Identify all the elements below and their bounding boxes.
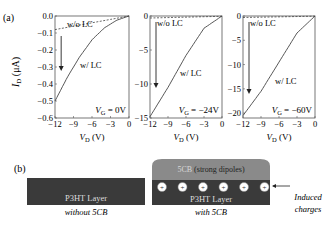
gate-voltage-label: VG = −60V [272, 105, 313, 116]
x-tick-label: 0 [127, 119, 131, 129]
caption-without: without 5CB [65, 207, 108, 217]
x-tick-label: −6 [181, 119, 190, 129]
x-tick-label: 0 [313, 119, 317, 129]
arrow-down-icon [154, 83, 159, 88]
plot-3: 0−5−10−15−20−12−9−6−30VD (V)w/o LCw/ LCV… [228, 11, 317, 143]
arrow-down-icon [247, 89, 252, 94]
lc-label: 5CB (strong dipoles) [177, 165, 244, 174]
x-axis-label: VD (V) [174, 132, 199, 143]
arrowhead-icon [272, 184, 276, 188]
x-tick-label: −6 [87, 119, 96, 129]
plot-2: 0−5−10−15−12−9−6−30VD (V)w/o LCw/ LCVG =… [135, 11, 224, 143]
annotation-line1: Induced [293, 192, 322, 202]
y-tick-label: 0 [237, 11, 241, 21]
p3ht-label-left: P3HT Layer [65, 193, 107, 203]
plot-1: 0.0−0.1−0.2−0.3−0.4−0.5−0.6−12−9−6−30VD … [38, 11, 132, 143]
svg-text:+: + [160, 184, 164, 192]
x-tick-label: −12 [143, 119, 156, 129]
x-axis-label: VD (V) [267, 132, 292, 143]
y-axis-label: ID (μA) [10, 57, 23, 88]
svg-text:+: + [181, 184, 185, 192]
label-with-lc: w/ LC [80, 60, 102, 70]
y-tick-label: −20 [228, 108, 241, 118]
y-tick-label: −0.2 [38, 45, 53, 55]
y-tick-label: 0 [144, 11, 148, 21]
x-tick-label: −9 [256, 119, 265, 129]
y-tick-label: 0.0 [42, 11, 53, 21]
y-tick-label: −15 [228, 84, 241, 94]
label-with-lc: w/ LC [180, 68, 202, 78]
y-tick-label: −5 [139, 45, 148, 55]
gate-voltage-label: VG = −24V [179, 105, 220, 116]
x-tick-label: −3 [199, 119, 208, 129]
y-tick-label: −0.1 [38, 28, 53, 38]
x-tick-label: −3 [292, 119, 301, 129]
caption-with: with 5CB [195, 207, 227, 217]
x-tick-label: −12 [48, 119, 61, 129]
plot-frame [150, 16, 222, 118]
p3ht-label-right: P3HT Layer [190, 194, 232, 204]
x-axis-label: VD (V) [80, 132, 105, 143]
y-tick-label: −10 [228, 60, 241, 70]
panel-a-label: (a) [3, 12, 14, 24]
svg-text:+: + [242, 184, 246, 192]
gate-voltage-label: VG = 0V [95, 105, 126, 116]
y-tick-label: −0.5 [38, 96, 53, 106]
x-tick-label: −9 [163, 119, 172, 129]
label-without-lc: w/o LC [157, 18, 183, 28]
panel-b-label: (b) [14, 163, 26, 175]
svg-text:+: + [263, 184, 267, 192]
label-without-lc: w/o LC [67, 19, 93, 29]
x-tick-label: −3 [106, 119, 115, 129]
x-tick-label: −6 [274, 119, 283, 129]
y-tick-label: −0.4 [38, 79, 54, 89]
y-tick-label: −5 [232, 35, 241, 45]
y-tick-label: −10 [135, 79, 148, 89]
label-with-lc: w/ LC [275, 76, 297, 86]
curve-with-lc [243, 16, 315, 116]
x-tick-label: −12 [236, 119, 249, 129]
svg-text:+: + [201, 184, 205, 192]
annotation-line2: charges [295, 204, 322, 214]
figure: (a) ID (μA) 0.0−0.1−0.2−0.3−0.4−0.5−0.6−… [0, 0, 334, 228]
label-without-lc: w/o LC [250, 18, 276, 28]
x-tick-label: 0 [220, 119, 224, 129]
arrow-down-icon [59, 66, 64, 71]
svg-text:+: + [222, 184, 226, 192]
plot-frame [243, 16, 315, 118]
y-tick-label: −0.3 [38, 62, 53, 72]
curve-with-lc [150, 16, 222, 117]
x-tick-label: −9 [69, 119, 78, 129]
